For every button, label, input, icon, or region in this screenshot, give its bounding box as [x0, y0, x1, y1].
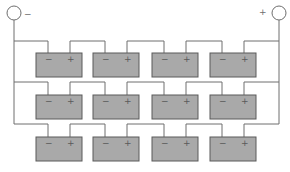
battery-body — [93, 137, 139, 161]
battery: −+ — [36, 137, 82, 161]
string-to-bus-wire — [244, 82, 279, 95]
negative-terminal-mark: − — [102, 96, 110, 106]
battery: −+ — [93, 137, 139, 161]
positive-terminal-mark: + — [183, 96, 191, 106]
series-link-wire — [70, 41, 105, 53]
battery-body — [152, 95, 198, 119]
battery-bank-diagram: − + −+−+−+−+−+−+−+−+−+−+−+−+ — [0, 0, 290, 172]
negative-terminal-label: − — [24, 9, 32, 19]
negative-terminal-mark: − — [45, 54, 53, 64]
battery-body — [36, 137, 82, 161]
negative-terminal-mark: − — [161, 54, 169, 64]
series-link-wire — [70, 124, 105, 137]
battery-body — [210, 95, 256, 119]
negative-terminal-mark: − — [219, 96, 227, 106]
battery-body — [93, 95, 139, 119]
positive-terminal-label: + — [259, 7, 267, 17]
negative-terminal-mark: − — [219, 138, 227, 148]
battery-body — [152, 53, 198, 77]
bus-to-string-wire — [14, 82, 48, 95]
bus-to-string-wire — [14, 41, 48, 53]
battery: −+ — [36, 95, 82, 119]
negative-terminal-mark: − — [102, 54, 110, 64]
battery-body — [210, 137, 256, 161]
string-to-bus-wire — [244, 41, 279, 53]
series-link-wire — [186, 124, 222, 137]
positive-terminal-mark: + — [183, 138, 191, 148]
battery: −+ — [210, 53, 256, 77]
positive-terminal-mark: + — [241, 54, 249, 64]
battery: −+ — [93, 53, 139, 77]
battery: −+ — [152, 53, 198, 77]
battery-body — [36, 53, 82, 77]
series-link-wire — [127, 41, 164, 53]
series-link-wire — [186, 82, 222, 95]
positive-terminal-node — [272, 6, 286, 20]
negative-terminal-mark: − — [102, 138, 110, 148]
positive-terminal-mark: + — [67, 54, 75, 64]
positive-terminal-mark: + — [67, 138, 75, 148]
string-to-bus-wire — [244, 124, 279, 137]
battery: −+ — [210, 137, 256, 161]
battery-body — [152, 137, 198, 161]
battery-body — [36, 95, 82, 119]
positive-terminal-mark: + — [241, 96, 249, 106]
negative-terminal-mark: − — [161, 138, 169, 148]
series-link-wire — [127, 82, 164, 95]
battery: −+ — [93, 95, 139, 119]
negative-terminal-mark: − — [45, 96, 53, 106]
negative-terminal-mark: − — [219, 54, 227, 64]
positive-terminal-mark: + — [124, 96, 132, 106]
series-link-wire — [127, 124, 164, 137]
bus-to-string-wire — [14, 124, 48, 137]
series-link-wire — [70, 82, 105, 95]
positive-terminal-mark: + — [124, 138, 132, 148]
battery-body — [93, 53, 139, 77]
negative-terminal-mark: − — [45, 138, 53, 148]
battery: −+ — [210, 95, 256, 119]
positive-terminal-mark: + — [241, 138, 249, 148]
negative-terminal-node — [7, 6, 21, 20]
battery: −+ — [36, 53, 82, 77]
positive-terminal-mark: + — [67, 96, 75, 106]
positive-terminal-mark: + — [124, 54, 132, 64]
battery: −+ — [152, 95, 198, 119]
series-link-wire — [186, 41, 222, 53]
battery-body — [210, 53, 256, 77]
battery: −+ — [152, 137, 198, 161]
negative-terminal-mark: − — [161, 96, 169, 106]
positive-terminal-mark: + — [183, 54, 191, 64]
